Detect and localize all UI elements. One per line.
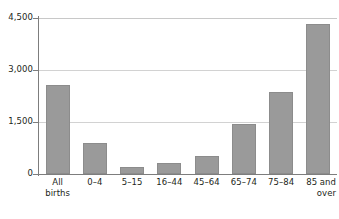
y-tick-label-3000: 3,000: [1, 65, 33, 74]
bar-slot: [76, 18, 113, 174]
x-tick-label: 75–84: [263, 177, 300, 188]
bar-slot: [151, 18, 188, 174]
bar: [269, 92, 293, 174]
x-tick-label: 5–15: [114, 177, 151, 188]
y-tick-label-1500: 1,500: [1, 117, 33, 126]
x-axis-line: [38, 174, 337, 175]
y-tick-mark-4500: [33, 18, 38, 19]
bar: [46, 85, 70, 174]
x-tick-label: 65–74: [225, 177, 262, 188]
x-tick-label: 16–44: [151, 177, 188, 188]
bar-slot: [263, 18, 300, 174]
bar-slot: [225, 18, 262, 174]
y-axis-labels: 4,500 3,000 1,500 0: [0, 0, 33, 219]
y-axis-line: [38, 16, 39, 176]
bar: [232, 124, 256, 174]
x-tick-label: 85 andover: [300, 177, 337, 198]
bar: [83, 143, 107, 174]
bar-chart: 4,500 3,000 1,500 0 Allbirths0–45–1516–4…: [0, 0, 339, 219]
y-tick-label-0: 0: [1, 169, 33, 178]
bar-slot: [300, 18, 337, 174]
x-tick-label: 45–64: [188, 177, 225, 188]
y-tick-mark-1500: [33, 122, 38, 123]
y-tick-label-4500: 4,500: [1, 13, 33, 22]
bar: [195, 156, 219, 174]
bar-slot: [188, 18, 225, 174]
bar: [157, 163, 181, 174]
bar-slot: [114, 18, 151, 174]
x-axis-labels: Allbirths0–45–1516–4445–6465–7475–8485 a…: [39, 177, 337, 217]
x-tick-label: Allbirths: [39, 177, 76, 198]
x-tick-label: 0–4: [76, 177, 113, 188]
plot-area: [39, 18, 337, 174]
y-tick-mark-3000: [33, 70, 38, 71]
bar-slot: [39, 18, 76, 174]
y-tick-mark-0: [33, 174, 38, 175]
bar: [306, 24, 330, 174]
bar: [120, 167, 144, 174]
